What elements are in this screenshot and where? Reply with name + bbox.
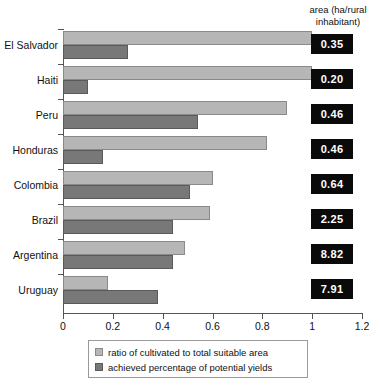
x-axis-tick [63,314,64,319]
area-header-line1: area (ha/rural [296,4,380,16]
category-label: Argentina [3,249,58,261]
area-header-line2: inhabitant) [296,16,380,28]
bar [63,31,312,45]
bar [63,255,173,269]
bar [63,66,312,80]
area-value-box: 0.35 [311,34,353,54]
bar [63,80,88,94]
category-label: Colombia [3,179,58,191]
chart-legend: ratio of cultivated to total suitable ar… [88,340,308,378]
bar [63,220,173,234]
light-gray-swatch-icon [95,348,103,356]
area-value-box: 7.91 [311,279,353,299]
x-axis-tick-label: 0.8 [247,320,277,332]
bar [63,185,190,199]
legend-label-cultivated-ratio: ratio of cultivated to total suitable ar… [108,347,268,358]
x-axis-tick-label: 1.2 [347,320,377,332]
legend-item-cultivated-ratio: ratio of cultivated to total suitable ar… [95,345,301,359]
x-axis-tick [213,314,214,319]
y-axis-tick [58,29,64,30]
area-value-box: 0.46 [311,104,353,124]
area-value-box: 2.25 [311,209,353,229]
x-axis-tick [113,314,114,319]
x-axis-tick-label: 0 [48,320,78,332]
x-axis-tick-label: 0.2 [98,320,128,332]
category-label: Honduras [3,144,58,156]
legend-label-achieved-yields: achieved percentage of potential yields [108,362,272,373]
bar [63,101,287,115]
category-label: Brazil [3,214,58,226]
category-axis-labels: El SalvadorHaitiPeruHondurasColombiaBraz… [0,31,58,313]
dark-gray-swatch-icon [95,363,103,371]
area-column-header: area (ha/rural inhabitant) [296,4,380,28]
x-axis-tick [262,314,263,319]
area-value-box: 0.64 [311,174,353,194]
bar [63,136,267,150]
area-value-box: 0.20 [311,69,353,89]
bar [63,150,103,164]
category-label: Uruguay [3,284,58,296]
bar [63,45,128,59]
x-axis-tick [163,314,164,319]
legend-item-achieved-yields: achieved percentage of potential yields [95,360,301,374]
area-value-box: 0.46 [311,139,353,159]
bar [63,290,158,304]
x-axis-tick-label: 1 [297,320,327,332]
category-label: Peru [3,109,58,121]
x-axis-tick [312,314,313,319]
category-label: Haiti [3,74,58,86]
x-axis-tick-label: 0.6 [198,320,228,332]
area-value-box: 8.82 [311,244,353,264]
bar [63,276,108,290]
bar [63,171,213,185]
chart-container: area (ha/rural inhabitant) El SalvadorHa… [0,0,381,391]
bar [63,206,210,220]
bar [63,241,185,255]
x-axis-tick [362,314,363,319]
bar [63,115,198,129]
x-axis-tick-label: 0.4 [148,320,178,332]
category-label: El Salvador [3,39,58,51]
